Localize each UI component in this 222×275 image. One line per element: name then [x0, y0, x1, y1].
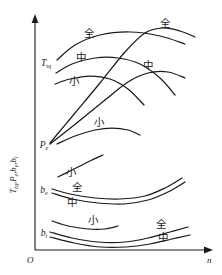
- throttle-label-T-tq-small: 小: [69, 75, 80, 87]
- y-axis-arrowhead: [32, 14, 39, 23]
- throttle-label-T-tq-medium: 中: [76, 51, 86, 63]
- throttle-label-b-e-medium: 中: [67, 196, 77, 208]
- torque-label-sub: tq: [46, 62, 51, 69]
- y-label-part-3-sub: i: [12, 156, 19, 158]
- throttle-label-P-e-small: 小: [94, 116, 105, 128]
- power-family-label: Pe: [39, 140, 49, 151]
- curve-b-i-medium: [50, 235, 190, 247]
- throttle-annotations-layer: 全中小全中小小全中小全中: [66, 17, 171, 243]
- throttle-label-b-i-full: 全: [156, 218, 167, 230]
- x-axis-label: n: [207, 255, 212, 265]
- curve-b-e-small: [58, 155, 103, 177]
- svg-text:Ttq,Pe,be,bi: Ttq,Pe,be,bi: [8, 156, 19, 193]
- x-axis-arrowhead: [204, 247, 213, 254]
- engine-characteristic-figure: O n Ttq,Pe,be,bi Ttq Pe be bi: [0, 0, 222, 275]
- axes-group: [32, 14, 213, 253]
- y-axis-label: Ttq,Pe,be,bi: [8, 156, 19, 193]
- throttle-label-b-e-full: 全: [72, 181, 83, 193]
- origin-label: O: [27, 255, 34, 265]
- curve-P-e-small: [57, 128, 140, 144]
- throttle-label-b-i-small: 小: [88, 214, 99, 226]
- curve-family-labels-group: Ttq Pe be bi: [39, 58, 51, 239]
- be-label-sub: e: [45, 189, 48, 196]
- throttle-label-b-e-small: 小: [66, 166, 77, 178]
- torque-family-label: Ttq: [41, 58, 51, 69]
- curve-b-i-small: [52, 221, 118, 229]
- throttle-label-P-e-full: 全: [160, 17, 171, 29]
- throttle-label-P-e-medium: 中: [143, 59, 153, 71]
- chart-canvas: O n Ttq,Pe,be,bi Ttq Pe be bi: [0, 0, 222, 275]
- power-label-sub: e: [46, 144, 49, 151]
- curves-layer: [50, 28, 195, 247]
- throttle-label-T-tq-full: 全: [84, 27, 95, 39]
- bi-label-sub: i: [46, 232, 48, 239]
- throttle-label-b-i-medium: 中: [158, 231, 168, 243]
- bsfc-effective-family-label: be: [40, 185, 48, 196]
- axis-labels-group: O n Ttq,Pe,be,bi: [8, 156, 212, 265]
- bsfc-indicated-family-label: bi: [41, 228, 48, 239]
